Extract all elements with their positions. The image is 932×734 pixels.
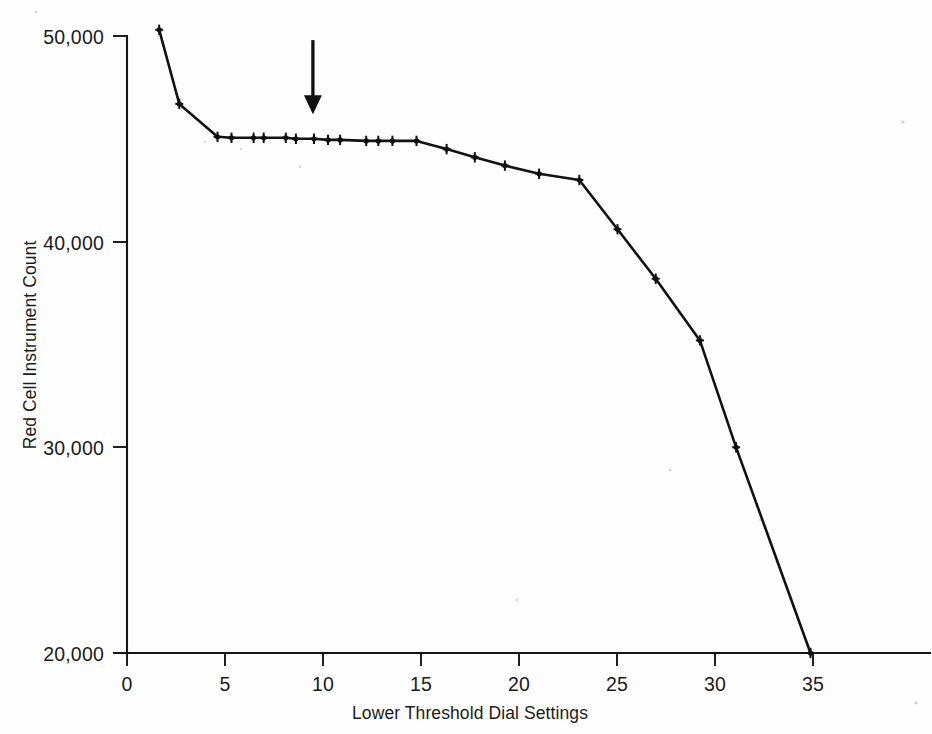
y-axis-ticks	[113, 36, 127, 653]
data-point-marker	[443, 144, 451, 154]
data-point-marker	[282, 133, 290, 143]
data-point-marker	[260, 133, 268, 143]
data-point-marker	[732, 442, 740, 452]
y-axis-title: Red Cell Instrument Count	[20, 241, 40, 450]
x-tick-label-0: 0	[121, 673, 132, 695]
data-point-marker	[388, 136, 396, 146]
data-series-layer	[155, 25, 814, 659]
down-arrow-annotation	[304, 40, 322, 114]
data-point-marker	[310, 134, 318, 144]
annotation-layer	[304, 40, 322, 114]
x-tick-label-25: 25	[606, 673, 628, 695]
x-tick-labels: 0 5 10 15 20 25 30 35	[121, 673, 824, 695]
data-point-marker	[324, 135, 332, 145]
data-point-marker	[336, 135, 344, 145]
scan-noise	[35, 11, 918, 705]
x-tick-label-5: 5	[219, 673, 230, 695]
x-axis-ticks	[127, 653, 813, 666]
data-point-marker	[250, 133, 258, 143]
x-tick-label-20: 20	[508, 673, 530, 695]
y-tick-label-40000: 40,000	[43, 232, 104, 254]
y-tick-label-20000: 20,000	[43, 643, 104, 665]
x-tick-label-30: 30	[704, 673, 726, 695]
data-point-marker	[471, 152, 479, 162]
data-point-marker	[501, 160, 509, 170]
data-point-marker	[292, 134, 300, 144]
data-point-marker	[155, 25, 163, 35]
y-tick-label-50000: 50,000	[43, 26, 104, 48]
y-tick-label-30000: 30,000	[43, 437, 104, 459]
data-point-marker	[228, 133, 236, 143]
y-tick-labels: 50,000 40,000 30,000 20,000	[43, 26, 104, 665]
x-tick-label-35: 35	[802, 673, 824, 695]
data-point-marker	[362, 136, 370, 146]
data-point-marker	[374, 136, 382, 146]
x-tick-label-10: 10	[312, 673, 334, 695]
data-point-marker	[413, 136, 421, 146]
x-tick-label-15: 15	[410, 673, 432, 695]
data-point-marker	[535, 169, 543, 179]
x-axis-title: Lower Threshold Dial Settings	[352, 703, 588, 723]
axes	[114, 36, 930, 653]
data-line-0	[159, 30, 810, 653]
line-chart-canvas: 50,000 40,000 30,000 20,000 0 5 10 15 20…	[0, 0, 932, 734]
chart-figure: 50,000 40,000 30,000 20,000 0 5 10 15 20…	[0, 0, 932, 734]
